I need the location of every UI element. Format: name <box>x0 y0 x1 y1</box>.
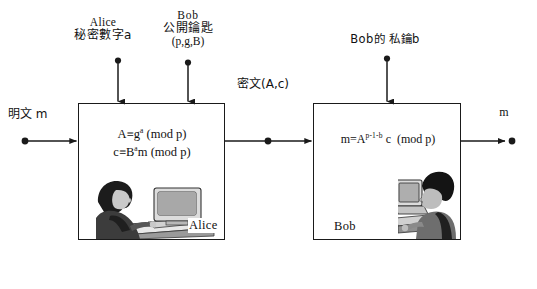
plaintext-output-label: m <box>492 106 516 119</box>
arrow-alice-secret <box>115 57 121 101</box>
bob-private-key-input-label: Bob的 私鑰b <box>330 33 440 46</box>
arrow-plaintext-out <box>461 138 515 145</box>
bob-f-lhs: m <box>341 132 350 146</box>
bob-public-key-input-label: Bob 公開鑰匙 (p,g,B) <box>142 9 234 48</box>
bob-public-line3: (p,g,B) <box>142 35 234 48</box>
alice-f2-tail: m <box>138 145 148 159</box>
bob-public-line1: Bob <box>142 9 234 22</box>
bob-box-name: Bob <box>333 219 357 234</box>
alice-f1-op: ≡ <box>127 127 134 141</box>
alice-f1-mod: (mod p) <box>147 127 187 141</box>
alice-secret-line1: Alice <box>58 16 148 29</box>
arrow-bob-public-key <box>185 59 191 101</box>
bob-f-mod: (mod p) <box>397 132 435 146</box>
alice-f2-op: ≡ <box>119 145 126 159</box>
alice-secret-input-label: Alice 秘密數字a <box>58 16 148 42</box>
bob-f-tail: c <box>386 132 391 146</box>
bob-illustration <box>398 166 460 239</box>
bob-f-op: = <box>350 132 357 146</box>
alice-formula-line1: A≡ga (mod p) <box>92 125 212 143</box>
plaintext-input-label: 明文 m <box>8 108 70 121</box>
arrow-plaintext-in <box>22 138 77 145</box>
alice-secret-line2: 秘密數字a <box>58 29 148 42</box>
alice-formula: A≡ga (mod p) c≡Bam (mod p) <box>92 125 212 161</box>
arrow-ciphertext-channel <box>225 138 312 145</box>
arrow-bob-private-key <box>384 55 390 101</box>
bob-f-exp: p-1-b <box>365 131 382 140</box>
ciphertext-channel-label: 密文(A,c) <box>237 78 317 91</box>
bob-formula: m=Ap-1-b c (mod p) <box>323 131 453 148</box>
bob-public-line2: 公開鑰匙 <box>142 22 234 35</box>
alice-f2-mod: (mod p) <box>151 145 191 159</box>
alice-f1-lhs: A <box>118 127 127 141</box>
diagram-canvas: Alice 秘密數字a Bob 公開鑰匙 (p,g,B) Bob的 私鑰b 明文… <box>0 0 537 289</box>
alice-box-name: Alice <box>188 218 219 233</box>
alice-formula-line2: c≡Bam (mod p) <box>92 143 212 161</box>
alice-f1-exp: a <box>140 126 144 135</box>
